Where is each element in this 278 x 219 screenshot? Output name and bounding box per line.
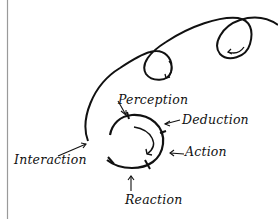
label-deduction: Deduction: [182, 112, 249, 127]
inner-cycle-arrow: [134, 127, 153, 154]
spiral-diagram: [0, 0, 278, 219]
label-reaction: Reaction: [125, 192, 182, 207]
inner-cycle-circle: [107, 115, 163, 168]
label-interaction: Interaction: [14, 152, 87, 167]
label-perception: Perception: [118, 92, 188, 107]
label-pointers: [58, 101, 184, 191]
loop2-arrowhead: [228, 49, 232, 54]
label-action: Action: [185, 144, 227, 159]
